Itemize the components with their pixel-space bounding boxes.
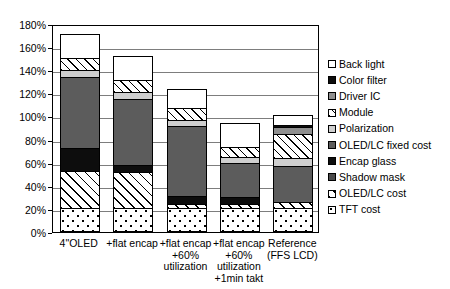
legend-swatch-icon — [328, 141, 336, 149]
y-axis-tick-label: 40% — [0, 182, 46, 193]
y-axis-tick-label: 120% — [0, 89, 46, 100]
legend-item[interactable]: Color filter — [328, 72, 448, 88]
bar-segment — [273, 158, 313, 166]
legend-swatch-icon — [328, 173, 336, 181]
legend-item[interactable]: TFT cost — [328, 202, 448, 218]
legend-swatch-icon — [328, 109, 336, 117]
bar-segment — [220, 163, 260, 198]
bar-segment — [60, 34, 100, 57]
y-axis-tick-label: 20% — [0, 205, 46, 216]
bar-segment — [113, 56, 153, 79]
legend-item[interactable]: Back light — [328, 56, 448, 72]
bar-segment — [113, 172, 153, 208]
stacked-bar — [220, 123, 260, 232]
bar-segment — [273, 134, 313, 158]
bar-segment — [113, 165, 153, 172]
stacked-bar — [113, 56, 153, 232]
legend-swatch-icon — [328, 157, 336, 165]
bar-segment — [113, 80, 153, 93]
bar-segment — [220, 123, 260, 146]
legend-label: Driver IC — [339, 91, 380, 102]
stacked-bar — [273, 115, 313, 232]
bar-segment — [60, 77, 100, 147]
y-axis-tick-mark — [48, 233, 52, 234]
bar-segment — [220, 208, 260, 232]
y-axis-tick-label: 80% — [0, 136, 46, 147]
legend-label: Back light — [339, 59, 385, 70]
bar-segment — [60, 171, 100, 208]
bar-segment — [113, 99, 153, 165]
bar-segment — [167, 89, 207, 109]
stacked-bar-chart: 180%160%140%120%100%80%60%40%20%0% 4"OLE… — [0, 0, 450, 289]
legend-item[interactable]: Encap glass — [328, 153, 448, 169]
legend-label: OLED/LC fixed cost — [339, 140, 431, 151]
bar-segment — [273, 208, 313, 232]
legend-item[interactable]: Module — [328, 105, 448, 121]
bar-segment — [60, 208, 100, 232]
y-axis-tick-label: 0% — [0, 228, 46, 239]
bar-segment — [273, 166, 313, 202]
legend-swatch-icon — [328, 206, 336, 214]
bar-segment — [60, 148, 100, 171]
legend-swatch-icon — [328, 190, 336, 198]
chart-legend: Back lightColor filterDriver ICModulePol… — [328, 56, 448, 218]
legend-label: Polarization — [339, 123, 394, 134]
bar-segment — [167, 196, 207, 204]
legend-item[interactable]: Shadow mask — [328, 169, 448, 185]
bar-segment — [113, 92, 153, 99]
legend-item[interactable]: Driver IC — [328, 88, 448, 104]
bar-segment — [220, 147, 260, 157]
legend-item[interactable]: OLED/LC cost — [328, 186, 448, 202]
legend-swatch-icon — [328, 125, 336, 133]
legend-label: Shadow mask — [339, 172, 405, 183]
bar-segment — [220, 197, 260, 204]
plot-area — [52, 25, 319, 233]
y-axis-tick-label: 160% — [0, 43, 46, 54]
legend-swatch-icon — [328, 76, 336, 84]
y-axis-tick-label: 180% — [0, 20, 46, 31]
x-axis-tick-label: Reference (FFS LCD) — [261, 238, 323, 261]
y-axis-tick-label: 100% — [0, 112, 46, 123]
legend-item[interactable]: Polarization — [328, 121, 448, 137]
legend-label: Encap glass — [339, 156, 396, 167]
legend-label: Module — [339, 107, 373, 118]
legend-label: OLED/LC cost — [339, 188, 406, 199]
bar-segment — [167, 126, 207, 196]
legend-item[interactable]: OLED/LC fixed cost — [328, 137, 448, 153]
bar-segment — [60, 58, 100, 71]
bar-segment — [167, 108, 207, 120]
y-axis-tick-label: 140% — [0, 66, 46, 77]
y-axis-tick-label: 60% — [0, 159, 46, 170]
legend-label: Color filter — [339, 75, 387, 86]
bar-segment — [167, 208, 207, 232]
legend-swatch-icon — [328, 92, 336, 100]
bar-segment — [273, 127, 313, 134]
stacked-bar — [167, 89, 207, 232]
bar-segment — [273, 115, 313, 124]
stacked-bar — [60, 34, 100, 232]
bar-segment — [113, 208, 153, 232]
bar-segment — [60, 70, 100, 77]
legend-label: TFT cost — [339, 204, 380, 215]
legend-swatch-icon — [328, 60, 336, 68]
